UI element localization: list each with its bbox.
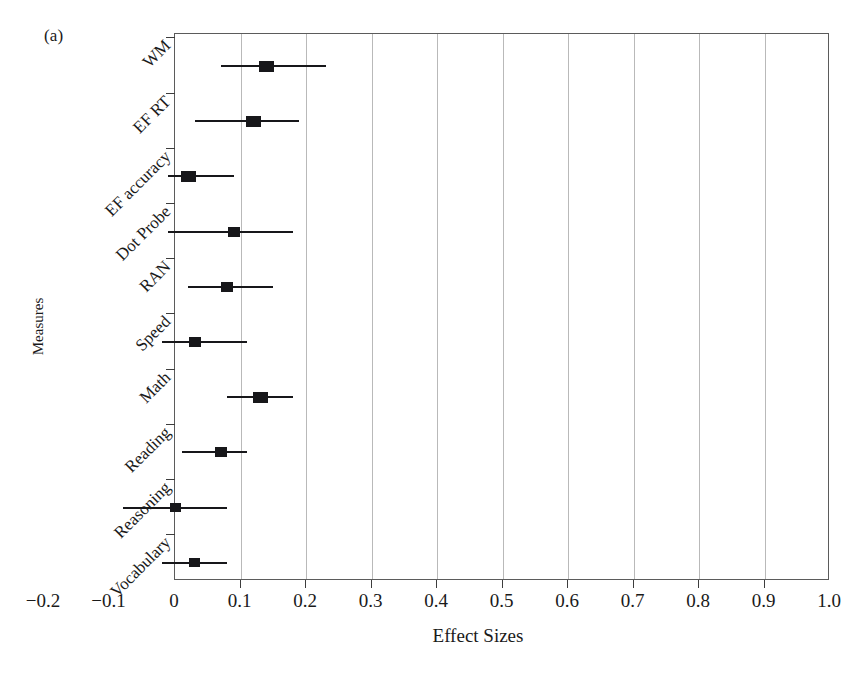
confidence-interval-line bbox=[168, 175, 234, 177]
x-axis-tick bbox=[633, 580, 634, 588]
x-axis-tick bbox=[371, 580, 372, 588]
y-axis-tick bbox=[166, 534, 175, 535]
x-axis-label: −0.2 bbox=[26, 590, 60, 612]
x-axis-label: 1.0 bbox=[817, 590, 841, 612]
x-axis-label: 0.8 bbox=[686, 590, 710, 612]
gridline bbox=[437, 34, 438, 579]
x-axis-label: 0.4 bbox=[424, 590, 448, 612]
y-axis-tick bbox=[166, 148, 175, 149]
x-axis-tick bbox=[436, 580, 437, 588]
x-axis-tick bbox=[502, 580, 503, 588]
y-axis-tick bbox=[166, 424, 175, 425]
gridline bbox=[372, 34, 373, 579]
effect-size-marker bbox=[228, 227, 240, 237]
gridline bbox=[765, 34, 766, 579]
x-axis-tick bbox=[567, 580, 568, 588]
effect-size-marker bbox=[253, 392, 268, 403]
forest-plot-figure: (a) Measures WMEF RTEF accuracyDot Probe… bbox=[0, 0, 866, 681]
x-axis-tick bbox=[764, 580, 765, 588]
x-axis-label: −0.1 bbox=[91, 590, 125, 612]
x-axis-label: 0 bbox=[169, 590, 179, 612]
y-axis-tick bbox=[166, 93, 175, 94]
x-axis-label: 0.5 bbox=[490, 590, 514, 612]
plot-area bbox=[174, 33, 829, 580]
x-axis-label: 0.6 bbox=[555, 590, 579, 612]
x-axis-label: 0.3 bbox=[359, 590, 383, 612]
y-axis-tick bbox=[166, 258, 175, 259]
effect-size-marker bbox=[246, 116, 261, 127]
effect-size-marker bbox=[189, 337, 201, 347]
y-axis-tick bbox=[166, 369, 175, 370]
y-axis-tick bbox=[166, 479, 175, 480]
x-axis-label: 0.2 bbox=[293, 590, 317, 612]
effect-size-marker bbox=[181, 171, 196, 182]
y-axis-tick bbox=[166, 313, 175, 314]
x-axis-tick bbox=[698, 580, 699, 588]
x-axis-label: 0.1 bbox=[228, 590, 252, 612]
gridline bbox=[241, 34, 242, 579]
y-axis-tick bbox=[166, 37, 175, 38]
gridline bbox=[306, 34, 307, 579]
x-axis-title: Effect Sizes bbox=[433, 625, 524, 647]
panel-label: (a) bbox=[44, 26, 63, 46]
gridline bbox=[634, 34, 635, 579]
x-axis-title-wrap: Effect Sizes bbox=[0, 625, 866, 647]
gridline bbox=[503, 34, 504, 579]
gridline bbox=[568, 34, 569, 579]
effect-size-marker bbox=[215, 447, 227, 457]
y-axis-tick bbox=[166, 203, 175, 204]
effect-size-marker bbox=[170, 503, 181, 512]
confidence-interval-line bbox=[162, 341, 247, 343]
effect-size-marker bbox=[221, 282, 233, 292]
x-axis-label: 0.7 bbox=[621, 590, 645, 612]
y-axis-title: Measures bbox=[30, 267, 47, 387]
x-axis-tick bbox=[240, 580, 241, 588]
gridline bbox=[699, 34, 700, 579]
effect-size-marker bbox=[259, 61, 274, 72]
effect-size-marker bbox=[189, 558, 200, 567]
x-axis-label: 0.9 bbox=[752, 590, 776, 612]
x-axis-tick bbox=[305, 580, 306, 588]
